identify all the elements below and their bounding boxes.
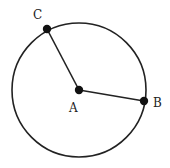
label-a: A [68,101,78,115]
label-b: B [153,96,162,110]
point-b [140,97,148,105]
label-c: C [33,8,42,22]
circle-diagram: A B C [0,0,170,168]
radius-ac [47,29,79,90]
point-c [43,25,51,33]
radius-ab [79,90,144,101]
point-a [75,86,83,94]
